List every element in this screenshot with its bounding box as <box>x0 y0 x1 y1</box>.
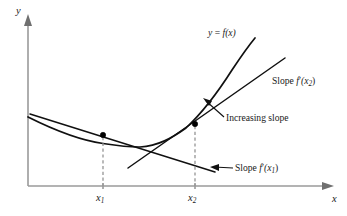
tick-label-x2-subscript: 2 <box>193 197 197 205</box>
slope-x2-open: (x <box>301 75 308 86</box>
slope-x1-open: (x <box>264 162 271 173</box>
leader-arrowhead-slope-x1 <box>210 164 219 171</box>
tangent-slope-figure: y x x1 x2 y = f(x) Slope f′(x2) Increasi… <box>0 0 347 216</box>
tick-label-x1: x1 <box>96 193 104 205</box>
curve-equation-arg: (x) <box>225 27 236 38</box>
slope-x2-prefix: Slope <box>272 75 296 86</box>
slope-x1-label: Slope f′(x1) <box>235 163 278 175</box>
curve-equation-equals: = <box>212 27 222 38</box>
slope-x1-close: ) <box>275 162 278 173</box>
tick-label-x1-subscript: 1 <box>101 197 105 205</box>
increasing-slope-label: Increasing slope <box>226 113 289 123</box>
slope-x1-prefix: Slope <box>235 162 259 173</box>
point-marker-x2 <box>192 121 197 126</box>
diagram-canvas <box>0 0 347 216</box>
tick-label-x2: x2 <box>188 193 196 205</box>
slope-x2-close: ) <box>312 75 315 86</box>
tangent-line-x1 <box>30 114 215 172</box>
function-curve <box>28 38 255 147</box>
point-marker-x1 <box>100 132 105 137</box>
slope-x2-label: Slope f′(x2) <box>272 76 315 88</box>
y-axis-arrowhead <box>24 14 32 26</box>
curve-equation-label: y = f(x) <box>208 28 236 38</box>
x-axis-label: x <box>332 194 337 205</box>
y-axis-label: y <box>16 6 21 17</box>
x-axis-arrowhead <box>322 182 334 190</box>
